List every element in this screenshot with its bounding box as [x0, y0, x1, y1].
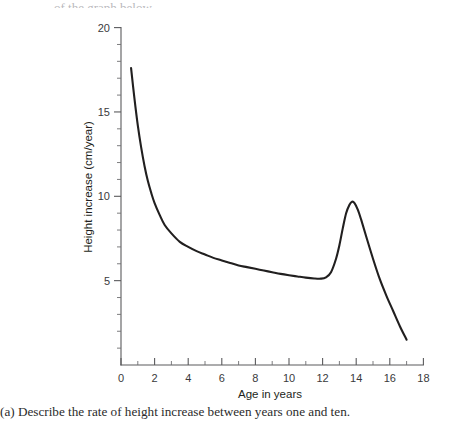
x-tick-label: 12	[316, 372, 328, 384]
x-tick-label: 14	[350, 372, 362, 384]
x-tick-label: 16	[384, 372, 396, 384]
chart-svg: 5101520024681012141618 Age in years Heig…	[0, 0, 450, 400]
x-tick-label: 18	[417, 372, 429, 384]
question-caption: (a) Describe the rate of height increase…	[0, 404, 450, 420]
x-tick-label: 6	[219, 372, 225, 384]
y-tick-label: 15	[98, 106, 110, 118]
growth-velocity-chart: 5101520024681012141618 Age in years Heig…	[0, 0, 450, 400]
x-axis-title: Age in years	[238, 388, 302, 400]
y-tick-label: 5	[104, 275, 110, 287]
x-tick-label: 4	[185, 372, 191, 384]
y-axis-title: Height increase (cm/year)	[82, 121, 94, 253]
x-tick-label: 10	[283, 372, 295, 384]
page-text-fragment: of the graph below.	[54, 0, 354, 8]
x-tick-label: 2	[152, 372, 158, 384]
y-tick-label: 20	[98, 22, 110, 34]
x-tick-label: 0	[118, 372, 124, 384]
chart-background	[0, 0, 450, 400]
y-tick-label: 10	[98, 190, 110, 202]
x-tick-label: 8	[252, 372, 258, 384]
